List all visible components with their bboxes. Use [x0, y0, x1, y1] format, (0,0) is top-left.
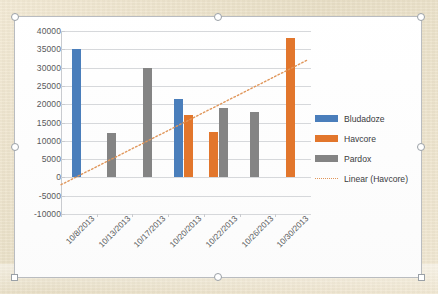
resize-handle-top-right[interactable] [417, 13, 425, 21]
resize-handle-top-center[interactable] [214, 13, 222, 21]
y-axis-tick-label: 35000 [37, 44, 61, 54]
bar-swatch-gray-icon [315, 155, 338, 162]
x-axis-tick-labels: 10/8/201310/13/201310/17/201310/20/20131… [61, 214, 321, 274]
legend-item-label: Havcore [344, 134, 376, 144]
y-axis-tick-label: 25000 [37, 81, 61, 91]
y-axis-tick-mark [62, 86, 65, 87]
x-axis-tick-mark [97, 214, 98, 217]
legend-item-label: Linear (Havcore) [344, 174, 408, 184]
plot-area[interactable] [61, 31, 311, 214]
y-axis-tick-mark [62, 49, 65, 50]
trendline-path [61, 60, 307, 184]
resize-handle-top-left[interactable] [11, 13, 19, 21]
chart-legend[interactable]: BludadozeHavcorePardoxLinear (Havcore) [315, 113, 415, 193]
x-axis-tick-label: 10/13/2013 [97, 214, 132, 249]
y-axis-tick-mark [62, 177, 65, 178]
legend-item-linear-havcore[interactable]: Linear (Havcore) [315, 173, 415, 184]
x-axis-tick-mark [168, 214, 169, 217]
legend-item-label: Pardox [344, 154, 371, 164]
x-axis-tick-label: 10/8/2013 [64, 214, 96, 246]
x-axis-tick-label: 10/22/2013 [204, 214, 239, 249]
dotted-line-swatch-icon [315, 178, 338, 179]
y-axis-tick-mark [62, 196, 65, 197]
x-axis-tick-label: 10/20/2013 [168, 214, 203, 249]
x-axis-tick-mark [61, 214, 62, 217]
x-axis-tick-mark [132, 214, 133, 217]
y-axis-tick-mark [62, 141, 65, 142]
x-axis-tick-mark [240, 214, 241, 217]
y-axis-tick-mark [62, 31, 65, 32]
y-axis-tick-label: 20000 [37, 99, 61, 109]
trendline-linear-havcore[interactable] [61, 31, 311, 214]
x-axis-tick-label: 10/17/2013 [132, 214, 167, 249]
y-axis-tick-label: 40000 [37, 26, 61, 36]
x-axis-tick-label: 10/30/2013 [275, 214, 310, 249]
resize-handle-right-middle[interactable] [417, 143, 425, 151]
y-axis-tick-labels: 4000035000300002500020000150001000050000… [25, 31, 61, 214]
resize-handle-left-middle[interactable] [11, 143, 19, 151]
y-axis-tick-label: 15000 [37, 118, 61, 128]
y-axis-tick-label: 10000 [37, 136, 61, 146]
y-axis-tick-label: -10000 [34, 209, 61, 219]
resize-handle-bottom-center[interactable] [214, 273, 222, 281]
legend-item-bludadoze[interactable]: Bludadoze [315, 113, 415, 124]
y-axis-tick-mark [62, 123, 65, 124]
resize-handle-bottom-left[interactable] [11, 274, 18, 281]
resize-handle-bottom-right[interactable] [418, 274, 425, 281]
y-axis-tick-label: 30000 [37, 63, 61, 73]
y-axis-tick-label: -5000 [39, 191, 61, 201]
x-axis-tick-label: 10/26/2013 [240, 214, 275, 249]
legend-item-pardox[interactable]: Pardox [315, 153, 415, 164]
y-axis-tick-mark [62, 159, 65, 160]
bar-swatch-blue-icon [315, 115, 338, 122]
chart-object[interactable]: 4000035000300002500020000150001000050000… [14, 16, 422, 278]
y-axis-tick-label: 0 [56, 172, 61, 182]
legend-item-havcore[interactable]: Havcore [315, 133, 415, 144]
x-axis-tick-mark [204, 214, 205, 217]
legend-item-label: Bludadoze [344, 114, 385, 124]
bar-swatch-orange-icon [315, 135, 338, 142]
y-axis-tick-mark [62, 68, 65, 69]
x-axis-tick-mark [275, 214, 276, 217]
y-axis-tick-label: 5000 [42, 154, 61, 164]
y-axis-tick-mark [62, 104, 65, 105]
